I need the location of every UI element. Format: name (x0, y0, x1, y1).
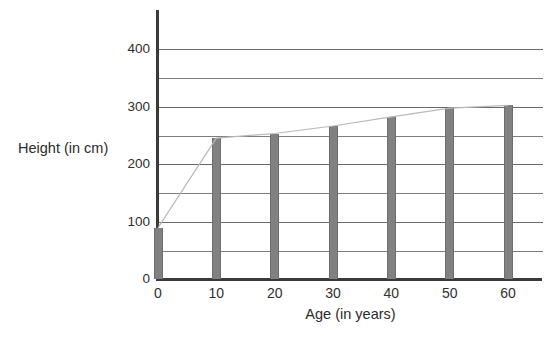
plot-area: 400 300 200 100 0 0 10 20 30 40 50 (0, 0, 559, 339)
gridline-250 (158, 136, 543, 137)
bar-age-10 (212, 138, 221, 279)
gridline-350 (158, 78, 543, 79)
x-tick-label-30: 30 (313, 286, 353, 300)
y-tick-label-200: 200 (114, 157, 150, 171)
x-tick-label-20: 20 (255, 286, 295, 300)
bar-age-50 (445, 108, 454, 279)
y-axis-title: Height (in cm) (18, 140, 108, 156)
height-vs-age-chart: 400 300 200 100 0 0 10 20 30 40 50 (0, 0, 559, 339)
x-tick-label-50: 50 (430, 286, 470, 300)
bar-age-40 (387, 117, 396, 279)
y-tick-label-0: 0 (114, 272, 150, 286)
bar-age-20 (270, 134, 279, 280)
x-tick-label-0: 0 (138, 286, 178, 300)
x-tick-label-40: 40 (371, 286, 411, 300)
x-axis-title: Age (in years) (158, 306, 543, 322)
x-tick-label-10: 10 (196, 286, 236, 300)
gridline-400 (158, 49, 543, 50)
bar-age-30 (329, 126, 338, 279)
bar-age-60 (504, 105, 513, 279)
y-tick-label-400: 400 (114, 42, 150, 56)
x-tick-label-60: 60 (488, 286, 528, 300)
gridline-300 (158, 107, 543, 108)
y-tick-label-300: 300 (114, 100, 150, 114)
bar-age-0 (154, 228, 163, 279)
y-tick-label-100: 100 (114, 215, 150, 229)
